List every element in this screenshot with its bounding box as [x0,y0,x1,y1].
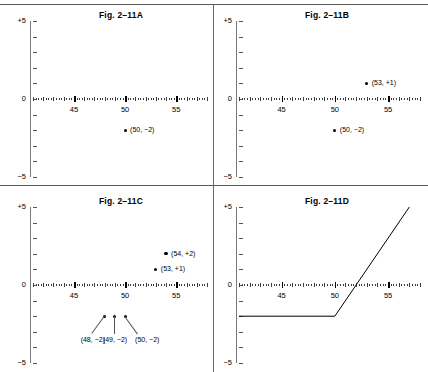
y-tick [239,37,243,38]
data-point-label: (53, +1) [372,79,396,86]
data-point-label: (48, −2) [81,336,105,343]
y-axis-label: 0 [8,94,26,103]
data-point [154,268,157,271]
data-point-label: (50, −2) [135,336,159,343]
x-tick [348,98,349,100]
x-tick [130,284,131,286]
x-tick [153,284,154,286]
y-tick [33,161,37,162]
x-tick [46,284,47,286]
x-tick [130,98,131,100]
x-tick [120,284,121,286]
x-tick [189,284,190,286]
x-tick [308,98,309,100]
x-tick [112,98,113,100]
data-point-label: (53, +1) [161,265,185,272]
y-tick [239,83,243,84]
x-tick [61,98,62,100]
x-tick [292,97,293,101]
x-tick [247,98,248,100]
y-axis-line [30,21,31,177]
x-tick [401,98,402,100]
x-tick [128,284,129,286]
x-tick [202,284,203,286]
x-axis-label: 55 [166,105,186,114]
x-tick [143,98,144,100]
y-tick [33,301,37,302]
x-tick [87,284,88,286]
data-point [333,129,336,132]
x-tick [169,284,170,286]
x-tick [87,98,88,100]
x-tick [97,284,98,286]
x-tick [135,283,136,287]
x-tick [48,98,49,100]
x-tick [207,97,208,101]
y-tick [239,130,243,131]
x-tick [36,98,37,100]
x-tick [284,98,285,100]
x-tick [107,98,108,100]
x-tick [146,283,147,287]
x-tick [383,98,384,100]
x-tick [179,98,180,100]
x-major-tick [176,96,178,102]
y-tick [239,115,243,116]
y-tick [239,177,243,178]
panel-c: Fig. 2–11C +50−5455055(54, +2)(53, +1)(4… [0,186,214,372]
x-tick [110,284,111,286]
x-tick [187,283,188,287]
x-tick [151,98,152,100]
x-tick [303,97,304,101]
plot-line [214,186,428,372]
y-tick [33,332,37,333]
y-tick [33,21,37,22]
x-tick [271,97,272,101]
x-major-tick [388,96,390,102]
x-tick [319,98,320,100]
x-axis-label: 45 [64,291,84,300]
x-tick [324,97,325,101]
x-tick [260,97,261,101]
x-tick [107,284,108,286]
x-tick [123,98,124,100]
x-tick [146,97,147,101]
y-tick [33,83,37,84]
x-tick [66,98,67,100]
x-tick [69,284,70,286]
x-tick [128,98,129,100]
x-tick [369,98,370,100]
x-major-tick [125,96,127,102]
x-tick [66,284,67,286]
y-tick [33,37,37,38]
y-tick [239,52,243,53]
x-tick [156,283,157,287]
x-tick [148,98,149,100]
panel-d-plot: +50−5455055 [214,186,428,372]
x-tick [43,97,44,101]
x-tick [133,284,134,286]
x-tick [187,97,188,101]
x-tick [290,98,291,100]
x-tick [38,98,39,100]
data-point-label: (49, −2) [103,336,127,343]
x-tick [276,98,277,100]
x-tick [279,98,280,100]
x-tick [345,97,346,101]
x-tick [340,98,341,100]
x-tick [412,98,413,100]
x-tick [189,98,190,100]
y-tick [33,254,37,255]
x-major-tick [176,282,178,288]
x-tick [353,98,354,100]
x-tick [332,98,333,100]
data-point-label: (54, +2) [171,250,195,257]
leader-line [91,316,105,335]
x-tick [268,98,269,100]
y-tick [33,130,37,131]
x-tick [364,98,365,100]
x-tick [300,98,301,100]
x-tick [92,284,93,286]
x-tick [164,98,165,100]
y-tick [33,238,37,239]
